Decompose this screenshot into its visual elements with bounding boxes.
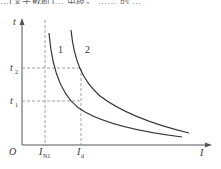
- axes: [22, 20, 210, 145]
- Id-subscript: d: [81, 153, 84, 159]
- origin-label: O: [9, 146, 16, 157]
- IN1-subscript: N1: [43, 153, 50, 159]
- x-axis-label: I: [199, 147, 204, 158]
- t1-label: t: [10, 95, 13, 106]
- x-axis-arrow-icon: [205, 143, 212, 148]
- t2-label: t: [10, 62, 13, 73]
- t1-subscript: 1: [15, 102, 18, 108]
- curve-1-label: 1: [58, 44, 63, 55]
- curve-2-label: 2: [85, 44, 90, 55]
- y-axis-label: t: [13, 16, 16, 27]
- y-axis-arrow-icon: [20, 18, 25, 25]
- curve-1: [49, 33, 182, 137]
- diagram: 1 2 t I O t 2 t 1 I N1 I d: [0, 0, 221, 169]
- t2-subscript: 2: [15, 69, 18, 75]
